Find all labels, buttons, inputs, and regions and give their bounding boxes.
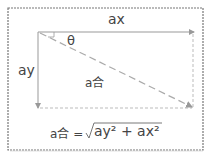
resultant-label: a合 [85,73,104,90]
formula-lhs: a合 = [50,124,83,141]
theta-label: θ [67,33,75,48]
formula-radicand: ay² + ax² [94,123,160,139]
resultant-dashed-arrow [40,33,192,107]
ay-label: ay [18,62,35,78]
angle-marker [48,32,54,37]
ax-label: ax [108,11,125,27]
sqrt-sign [86,123,94,138]
